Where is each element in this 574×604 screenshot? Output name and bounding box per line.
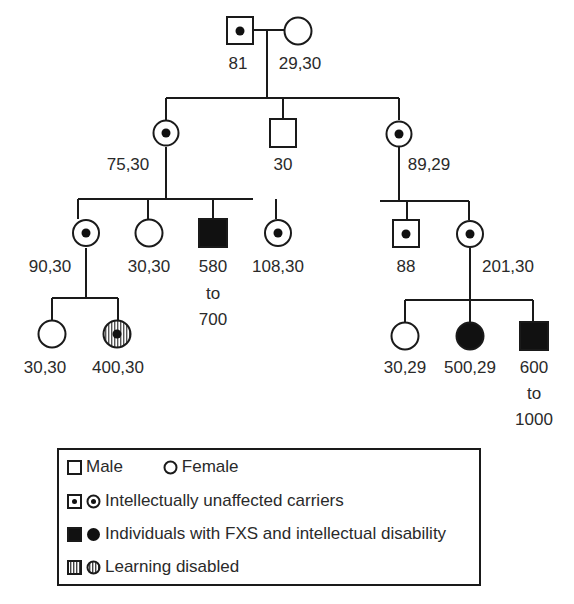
gen4-female-unaffected-a <box>39 321 66 348</box>
male-square-icon <box>67 460 82 475</box>
learning-disabled-male-icon <box>67 560 82 575</box>
gen4-left-label-2: 400,30 <box>92 358 144 377</box>
gen3-left-label-4: 108,30 <box>252 257 304 276</box>
gen2-female-carrier-1 <box>154 121 179 146</box>
gen1-mother-label: 29,30 <box>279 54 322 73</box>
legend-affected-label: Individuals with FXS and intellectual di… <box>105 524 446 544</box>
gen3-female-carrier-c <box>457 221 483 247</box>
gen1-father <box>227 17 253 44</box>
gen3-left-label-3c: 700 <box>199 310 227 329</box>
gen2-female-carrier-2 <box>387 122 412 147</box>
gen2-male-unaffected <box>270 119 296 147</box>
gen3-female-carrier-a <box>73 220 99 246</box>
female-circle-icon <box>163 460 178 475</box>
legend-row-affected: Individuals with FXS and intellectual di… <box>67 522 446 546</box>
legend-row-learning: Learning disabled <box>67 555 239 579</box>
gen2-label-2: 30 <box>274 155 293 174</box>
legend-learning-label: Learning disabled <box>105 557 239 577</box>
gen3-female-carrier-b <box>265 220 291 246</box>
gen4-right-label-3a: 600 <box>520 358 548 377</box>
gen4-right-label-1: 30,29 <box>384 358 427 377</box>
gen4-female-unaffected-b <box>392 323 419 350</box>
gen2-label-1: 75,30 <box>107 155 150 174</box>
gen3-left-label-2: 30,30 <box>128 257 171 276</box>
legend-male-label: Male <box>86 457 123 477</box>
pedigree-chart: 81 29,30 75,30 30 89,29 90,30 30,30 580 … <box>0 0 574 450</box>
gen3-male-carrier <box>393 220 419 247</box>
gen3-male-affected <box>199 219 227 247</box>
gen3-left-label-3b: to <box>206 284 220 303</box>
affected-female-icon <box>86 527 101 542</box>
legend-box: Male Female Intellectually unaffected ca… <box>57 448 481 586</box>
gen4-right-label-2: 500,29 <box>444 358 496 377</box>
gen4-right-label-3c: 1000 <box>515 410 553 429</box>
gen4-female-learning-disabled <box>104 321 131 348</box>
legend-row-sex: Male Female <box>67 455 239 479</box>
affected-male-icon <box>67 527 82 542</box>
gen4-left-label-1: 30,30 <box>24 358 67 377</box>
legend-row-carriers: Intellectually unaffected carriers <box>67 489 344 513</box>
learning-disabled-female-icon <box>86 560 101 575</box>
gen1-mother <box>285 18 312 45</box>
gen4-male-affected <box>520 322 548 350</box>
gen4-female-affected <box>457 323 484 350</box>
gen4-right-label-3b: to <box>527 384 541 403</box>
legend-carriers-label: Intellectually unaffected carriers <box>105 491 344 511</box>
gen3-right-label-1: 88 <box>397 257 416 276</box>
legend-female-label: Female <box>182 457 239 477</box>
carrier-female-icon <box>86 494 101 509</box>
gen3-left-label-3a: 580 <box>199 257 227 276</box>
gen3-female-unaffected <box>136 220 163 247</box>
gen3-right-label-2: 201,30 <box>482 257 534 276</box>
gen3-left-label-1: 90,30 <box>29 257 72 276</box>
gen1-father-label: 81 <box>229 54 248 73</box>
gen2-label-3: 89,29 <box>408 155 451 174</box>
carrier-male-icon <box>67 494 82 509</box>
